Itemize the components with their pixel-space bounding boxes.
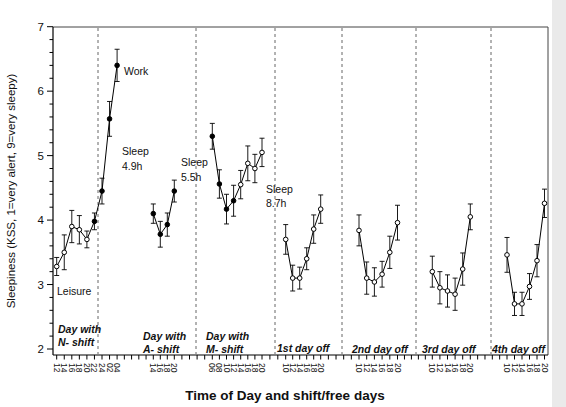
data-point-rest xyxy=(380,272,385,277)
y-tick-label: 4 xyxy=(38,214,45,226)
panel-label: A- shift xyxy=(142,343,180,355)
x-tick-label: 20 xyxy=(393,363,403,373)
data-point-rest xyxy=(62,250,67,255)
data-point-work xyxy=(100,189,105,194)
y-axis-title: Sleepiness (KSS, 1=very alert, 9=very sl… xyxy=(5,74,17,309)
data-point-work xyxy=(231,198,236,203)
sleepiness-line-chart: 2345671214161820222402041416182006081012… xyxy=(0,0,566,407)
annotation-sleep-3: 8.7h xyxy=(266,197,287,209)
panel-label: N- shift xyxy=(58,336,95,348)
series-line xyxy=(153,191,174,234)
data-point-work xyxy=(210,134,215,139)
data-point-rest xyxy=(505,253,510,258)
series-panel-4 xyxy=(283,195,323,291)
y-tick-label: 7 xyxy=(38,21,44,33)
data-point-work xyxy=(158,232,163,237)
series-panel-6 xyxy=(430,204,473,310)
y-tick-label: 6 xyxy=(38,85,44,97)
y-tick-label: 3 xyxy=(38,279,44,291)
annotation-sleep-2: Sleep xyxy=(181,156,208,168)
scan-edge-strip xyxy=(552,0,566,407)
data-point-work xyxy=(172,189,177,194)
x-tick-label: 20 xyxy=(465,363,475,373)
series-panel-3 xyxy=(210,123,265,224)
series-panel-2 xyxy=(151,180,177,247)
annotation-sleep-1: 4.9h xyxy=(122,160,143,172)
series-panel-1 xyxy=(54,49,119,275)
annotation-work: Work xyxy=(124,65,149,77)
data-point-rest xyxy=(246,161,251,166)
annotation-sleep-1: Sleep xyxy=(122,145,149,157)
data-point-rest xyxy=(54,264,59,269)
panel-label: 2nd day off xyxy=(351,343,409,355)
panel-label: 3rd day off xyxy=(422,343,477,355)
data-point-rest xyxy=(468,215,473,220)
panel-label: M- shift xyxy=(206,343,244,355)
series-line xyxy=(432,217,470,294)
data-point-rest xyxy=(438,285,443,290)
data-point-rest xyxy=(527,284,532,289)
data-point-rest xyxy=(445,289,450,294)
sleepiness-shift-figure: 2345671214161820222402041416182006081012… xyxy=(0,0,566,407)
data-point-rest xyxy=(388,250,393,255)
data-point-rest xyxy=(260,150,265,155)
data-point-rest xyxy=(297,276,302,281)
data-point-rest xyxy=(395,220,400,225)
data-point-work xyxy=(92,219,97,224)
data-point-rest xyxy=(512,302,517,307)
data-point-rest xyxy=(253,166,258,171)
series-panel-5 xyxy=(357,205,401,296)
y-tick-label: 5 xyxy=(38,150,44,162)
data-point-rest xyxy=(453,292,458,297)
data-point-rest xyxy=(311,227,316,232)
annotation-leisure: Leisure xyxy=(57,285,92,297)
x-tick-label: 20 xyxy=(169,363,179,373)
data-point-rest xyxy=(535,258,540,263)
data-point-rest xyxy=(542,201,547,206)
panel-label: Day with xyxy=(143,330,186,342)
data-point-rest xyxy=(318,207,323,212)
data-point-rest xyxy=(364,276,369,281)
x-tick-label: 20 xyxy=(540,363,550,373)
x-tick-label: 04 xyxy=(112,363,122,373)
data-point-rest xyxy=(430,269,435,274)
data-point-work xyxy=(115,63,120,68)
data-point-work xyxy=(151,211,156,216)
annotation-sleep-2: 5.5h xyxy=(181,171,202,183)
series-line xyxy=(507,203,545,304)
plot-area: 2345671214161820222402041416182006081012… xyxy=(38,0,566,407)
panel-label: Day with xyxy=(206,330,249,342)
data-point-rest xyxy=(520,302,525,307)
x-axis-title: Time of Day and shift/free days xyxy=(185,388,384,403)
panel-label: 1st day off xyxy=(277,342,331,354)
data-point-rest xyxy=(77,227,82,232)
series-panel-7 xyxy=(505,189,548,315)
data-point-work xyxy=(165,222,170,227)
data-point-work xyxy=(217,182,222,187)
data-point-rest xyxy=(372,280,377,285)
panel-label: Day with xyxy=(58,323,101,335)
data-point-rest xyxy=(290,276,295,281)
x-tick-label: 20 xyxy=(257,363,267,373)
data-point-rest xyxy=(304,256,309,261)
annotation-sleep-3: Sleep xyxy=(266,183,293,195)
data-point-rest xyxy=(238,182,243,187)
data-point-rest xyxy=(85,237,90,242)
data-point-rest xyxy=(70,224,75,229)
data-point-work xyxy=(224,207,229,212)
data-point-rest xyxy=(460,267,465,272)
data-point-rest xyxy=(283,237,288,242)
panel-label: 4th day off xyxy=(491,343,546,355)
data-point-rest xyxy=(357,228,362,233)
y-tick-label: 2 xyxy=(38,343,44,355)
x-tick-label: 20 xyxy=(316,363,326,373)
data-point-work xyxy=(107,117,112,122)
